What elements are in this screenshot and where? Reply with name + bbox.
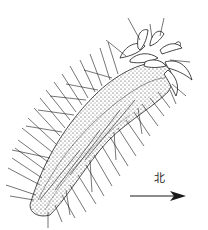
north-label: 北 [151, 172, 167, 186]
stem-body [30, 62, 172, 216]
botanical-illustration [0, 0, 208, 230]
north-arrow-icon [130, 191, 186, 201]
